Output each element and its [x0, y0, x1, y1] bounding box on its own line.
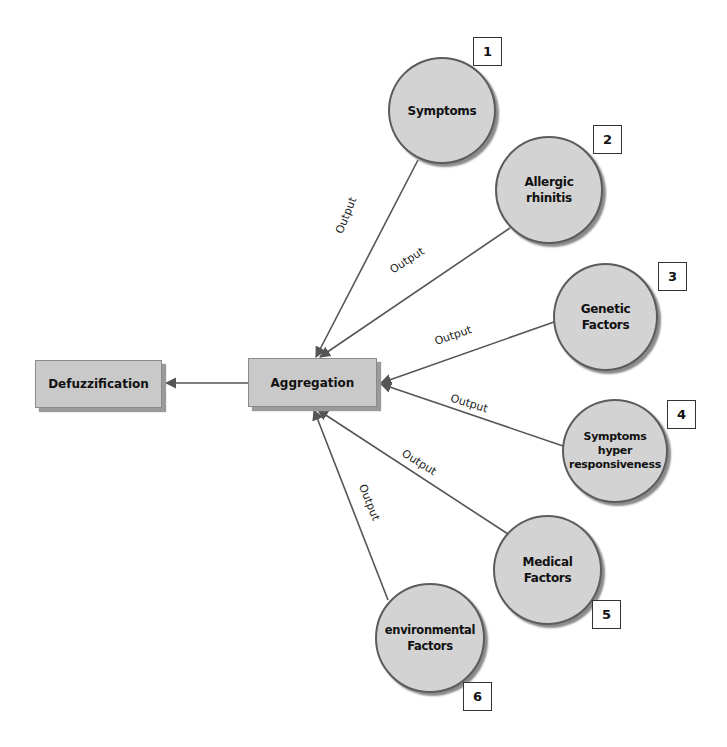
aggregation-node: Aggregation — [248, 358, 377, 407]
environmental-factors-node: environmental Factors — [375, 583, 485, 693]
symptoms-hyper-node: Symptoms hyper responsiveness — [562, 399, 668, 503]
number-badge-1: 1 — [473, 37, 502, 66]
allergic-rhinitis-node: Allergic rhinitis — [495, 136, 603, 244]
edge-medical-factors — [318, 410, 508, 534]
number-badge-6: 6 — [463, 682, 492, 711]
number-badge-5: 5 — [592, 600, 621, 629]
number-badge-3: 3 — [658, 262, 687, 291]
symptoms-node: Symptoms — [388, 57, 496, 164]
genetic-factors-node: Genetic Factors — [553, 263, 658, 371]
number-badge-4: 4 — [667, 400, 696, 429]
defuzzification-node: Defuzzification — [35, 360, 162, 408]
number-badge-2: 2 — [593, 125, 622, 154]
edge-symptoms-hyper — [381, 384, 563, 446]
fuzzy-diagram: Defuzzification Aggregation Symptoms All… — [0, 0, 727, 747]
medical-factors-node: Medical Factors — [493, 515, 602, 625]
